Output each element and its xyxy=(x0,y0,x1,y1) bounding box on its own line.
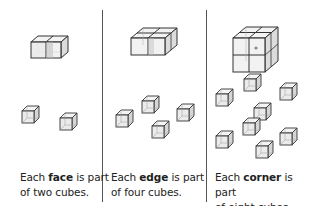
shared-corner-marker xyxy=(254,46,257,49)
corner-caption: Each corner is part of eight cubes. xyxy=(215,170,313,206)
caption-keyword: edge xyxy=(139,171,168,183)
caption-text: of eight cubes. xyxy=(215,201,291,206)
caption-text: is part xyxy=(73,171,109,183)
caption-keyword: face xyxy=(48,171,73,183)
two-cube-block xyxy=(31,36,68,58)
caption-text: is part xyxy=(168,171,204,183)
caption-text: Each xyxy=(111,171,139,183)
edge-caption: Each edge is part of four cubes. xyxy=(111,170,204,200)
caption-text: Each xyxy=(20,171,48,183)
corner-separated-cubes xyxy=(216,74,297,158)
caption-keyword: corner xyxy=(243,171,281,183)
four-cube-block xyxy=(131,28,177,55)
panel-divider-2 xyxy=(206,10,207,202)
edge-separated-cubes xyxy=(116,96,194,138)
face-caption: Each face is part of two cubes. xyxy=(20,170,109,200)
eight-cube-block xyxy=(233,27,278,72)
caption-text: of two cubes. xyxy=(20,186,89,198)
caption-text: Each xyxy=(215,171,243,183)
face-separated-cubes xyxy=(22,106,77,130)
caption-text: of four cubes. xyxy=(111,186,182,198)
